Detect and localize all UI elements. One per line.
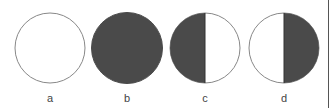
label-b: b <box>91 92 163 104</box>
panel-b: b <box>91 12 163 102</box>
phase-circles-figure: a b c d <box>0 0 330 108</box>
circle-a-icon <box>14 12 86 84</box>
label-c: c <box>169 92 241 104</box>
panel-d: d <box>248 12 320 102</box>
label-d: d <box>248 92 320 104</box>
label-a: a <box>14 92 86 104</box>
circle-b-icon <box>91 12 163 84</box>
circle-d-icon <box>248 12 320 84</box>
circle-c-icon <box>169 12 241 84</box>
panel-c: c <box>169 12 241 102</box>
frame-right-border <box>328 0 329 108</box>
panel-a: a <box>14 12 86 102</box>
